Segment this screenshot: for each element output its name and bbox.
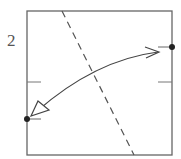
fold-diagram xyxy=(0,0,181,159)
paper-square xyxy=(27,11,172,155)
fold-arrow-arc xyxy=(36,52,158,112)
valley-fold-line xyxy=(62,11,134,155)
right-edge-dot xyxy=(169,44,175,50)
left-edge-dot xyxy=(24,116,30,122)
